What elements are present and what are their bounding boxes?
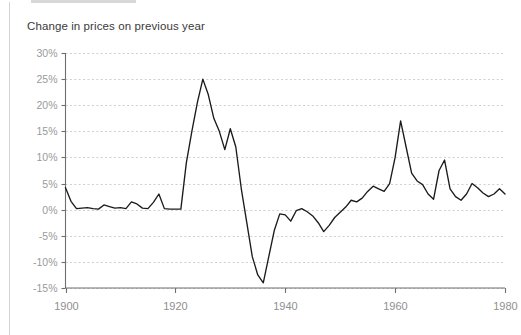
chart-figure: Change in prices on previous year 30%25%… bbox=[0, 0, 521, 335]
x-axis-tick-label: 1980 bbox=[493, 300, 517, 312]
y-axis-tick-label: 10% bbox=[36, 151, 57, 163]
y-axis-tick-label: 25% bbox=[36, 73, 57, 85]
data-series-line bbox=[66, 79, 506, 283]
y-axis-tick-label: -10% bbox=[33, 256, 58, 268]
y-axis-tick-label: -5% bbox=[39, 230, 58, 242]
y-axis-tick-label: 0% bbox=[42, 204, 57, 216]
y-axis-tick-label: 15% bbox=[36, 125, 57, 137]
y-axis-tick-label: -15% bbox=[33, 282, 58, 294]
x-axis-tick-label: 1940 bbox=[273, 300, 297, 312]
x-axis-tick-label: 1900 bbox=[54, 300, 78, 312]
line-chart-plot: 30%25%20%15%10%5%0%-5%-10%-15% 190019201… bbox=[0, 0, 521, 335]
x-axis-tick-label: 1920 bbox=[163, 300, 187, 312]
y-axis-tick-label: 30% bbox=[36, 47, 57, 59]
y-axis-ticks-group: 30%25%20%15%10%5%0%-5%-10%-15% bbox=[33, 47, 66, 294]
x-axis-ticks-group: 19001920194019601980 bbox=[54, 288, 517, 312]
y-axis-tick-label: 5% bbox=[42, 178, 57, 190]
y-axis-tick-label: 20% bbox=[36, 99, 57, 111]
x-axis-tick-label: 1960 bbox=[383, 300, 407, 312]
